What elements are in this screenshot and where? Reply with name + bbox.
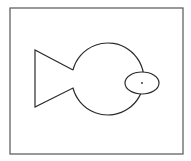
fish-pupil-dot bbox=[141, 82, 143, 84]
fish bbox=[35, 43, 159, 115]
fish-diagram bbox=[0, 0, 191, 161]
